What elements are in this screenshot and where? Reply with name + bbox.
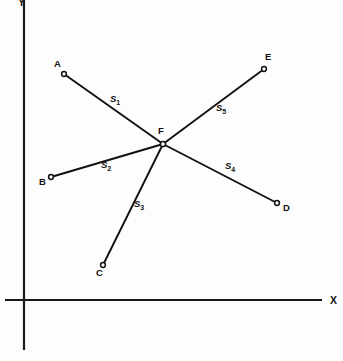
node-label-f: F (158, 126, 164, 136)
y-axis-label: Y (18, 0, 25, 8)
segment-label-s4: S4 (225, 161, 235, 173)
segment-label-s2: S2 (101, 160, 111, 172)
segment-label-subscript: 5 (222, 108, 226, 115)
node-marker-b (49, 175, 54, 180)
node-label-c: C (96, 268, 103, 278)
diagram-svg (0, 0, 343, 361)
segment-label-subscript: 2 (107, 165, 111, 172)
node-label-d: D (283, 203, 290, 213)
node-marker-f (160, 141, 165, 146)
segment-line-s1 (64, 74, 163, 144)
node-marker-d (275, 201, 280, 206)
segments-group (51, 69, 277, 265)
x-axis-label: X (330, 295, 337, 306)
segment-label-subscript: 1 (116, 99, 120, 106)
node-marker-a (62, 72, 67, 77)
segment-line-s3 (103, 144, 163, 265)
diagram-canvas: X Y FABCDE S1S2S3S4S5 (0, 0, 343, 361)
segment-label-s5: S5 (216, 103, 226, 115)
node-label-a: A (54, 59, 61, 69)
segment-line-s5 (163, 69, 264, 144)
segment-label-subscript: 3 (140, 204, 144, 211)
segment-label-s1: S1 (110, 94, 120, 106)
segment-label-subscript: 4 (231, 166, 235, 173)
node-marker-e (262, 67, 267, 72)
segment-line-s4 (163, 144, 277, 203)
node-label-b: B (39, 177, 46, 187)
node-label-e: E (265, 52, 271, 62)
segment-label-s3: S3 (134, 199, 144, 211)
